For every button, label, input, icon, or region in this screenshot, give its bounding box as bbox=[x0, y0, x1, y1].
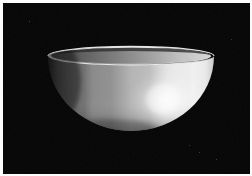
screenshot-root: Shaded hemispherical bowl render A grays… bbox=[0, 0, 252, 176]
render-canvas bbox=[3, 3, 250, 174]
noise-speck bbox=[189, 145, 190, 146]
frame-edge-right bbox=[250, 0, 252, 176]
noise-speck bbox=[216, 159, 217, 160]
noise-speck bbox=[29, 21, 30, 22]
photo-frame bbox=[0, 0, 252, 176]
sensor-noise-overlay bbox=[3, 3, 250, 174]
frame-edge-bottom bbox=[0, 174, 252, 176]
noise-speck bbox=[231, 39, 232, 40]
noise-speck bbox=[199, 152, 200, 153]
bowl-render-scene bbox=[3, 3, 250, 174]
